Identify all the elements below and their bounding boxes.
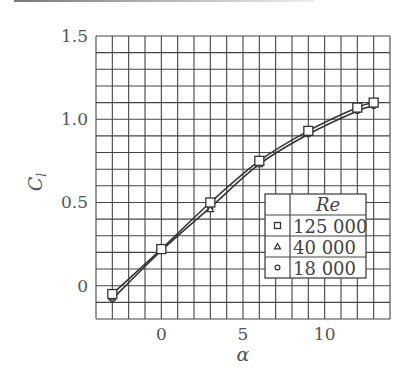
square-marker-icon xyxy=(275,223,281,229)
x-tick-label: 10 xyxy=(314,324,336,344)
legend: Re125 00040 00018 000 xyxy=(265,194,367,279)
y-axis-label: Cl xyxy=(24,173,49,192)
square-marker-icon xyxy=(369,98,378,107)
legend-entry-label: 125 000 xyxy=(293,216,367,237)
x-tick-labels: 0510 xyxy=(156,324,336,344)
lift-coefficient-chart: 00.51.01.5 0510 Cl α Re125 00040 00018 0… xyxy=(0,0,411,386)
y-tick-label: 1.5 xyxy=(61,26,88,46)
y-tick-label: 0 xyxy=(77,276,88,296)
circle-marker-icon xyxy=(275,265,280,270)
square-marker-icon xyxy=(108,290,117,299)
square-marker-icon xyxy=(353,103,362,112)
square-marker-icon xyxy=(157,245,166,254)
x-tick-label: 0 xyxy=(156,324,167,344)
square-marker-icon xyxy=(206,198,215,207)
legend-title: Re xyxy=(315,194,340,215)
legend-entry-label: 40 000 xyxy=(293,237,356,258)
y-tick-label: 0.5 xyxy=(61,192,88,212)
y-tick-labels: 00.51.01.5 xyxy=(61,26,88,296)
legend-entry-label: 18 000 xyxy=(293,258,356,279)
square-marker-icon xyxy=(255,156,264,165)
x-tick-label: 5 xyxy=(238,324,249,344)
x-axis-label: α xyxy=(237,343,250,365)
square-marker-icon xyxy=(304,126,313,135)
y-tick-label: 1.0 xyxy=(61,109,88,129)
